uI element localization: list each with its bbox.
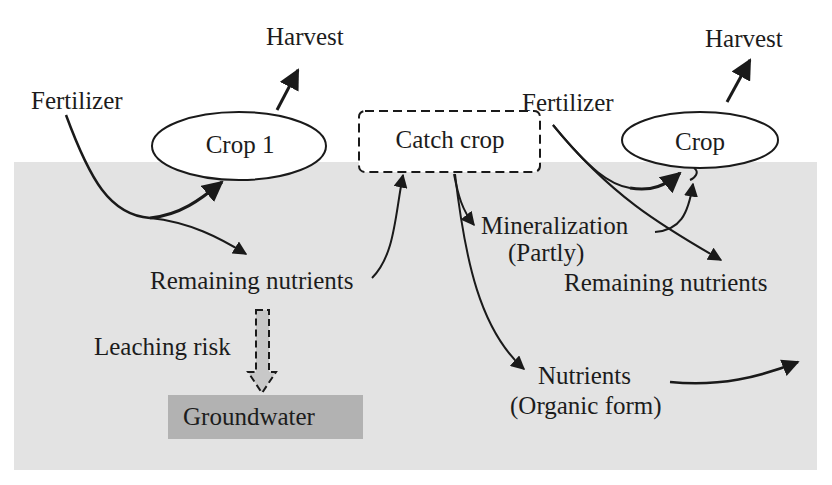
harvest-2-label: Harvest (705, 26, 783, 51)
groundwater-label: Groundwater (183, 404, 315, 429)
fertilizer-2-label: Fertilizer (522, 90, 614, 115)
catch-crop-to-organic-nutrients-arrow (455, 174, 524, 369)
catch-crop-label: Catch crop (360, 127, 540, 152)
nutrient-cycle-diagram: Harvest Fertilizer Crop 1 Catch crop Har… (0, 0, 832, 485)
catch-crop-to-mineralization-arrow (454, 174, 474, 225)
leaching-risk-label: Leaching risk (94, 334, 231, 359)
mineralization-link-mark (690, 168, 697, 180)
diagram-shapes-and-arrows (0, 0, 832, 485)
organic-nutrients-label: Nutrients (538, 363, 631, 388)
fertilizer-1-label: Fertilizer (31, 88, 123, 113)
harvest-1-label: Harvest (266, 24, 344, 49)
remaining-nutrients-2-label: Remaining nutrients (564, 270, 767, 295)
crop-1-label: Crop 1 (180, 132, 300, 157)
harvest-2-arrow (727, 60, 750, 102)
crop-2-label: Crop (640, 129, 760, 154)
remaining-to-catch-crop-arrow (372, 175, 403, 278)
remaining-nutrients-1-label: Remaining nutrients (150, 268, 353, 293)
mineralization-note-label: (Partly) (508, 240, 584, 265)
mineralization-label: Mineralization (481, 213, 628, 238)
leaching-risk-arrow (248, 310, 276, 393)
organic-nutrients-outflow-arrow (670, 362, 798, 383)
fertilizer-1-to-remaining-arrow (150, 218, 246, 254)
fertilizer-1-stem (66, 115, 150, 218)
harvest-1-arrow (277, 70, 298, 110)
fertilizer-1-to-crop-1-arrow (150, 182, 222, 218)
fertilizer-2-to-crop-arrow (630, 173, 680, 189)
fertilizer-2-stem (553, 125, 630, 188)
organic-nutrients-note-label: (Organic form) (510, 393, 662, 418)
mineralization-to-crop-arrow (655, 184, 693, 232)
